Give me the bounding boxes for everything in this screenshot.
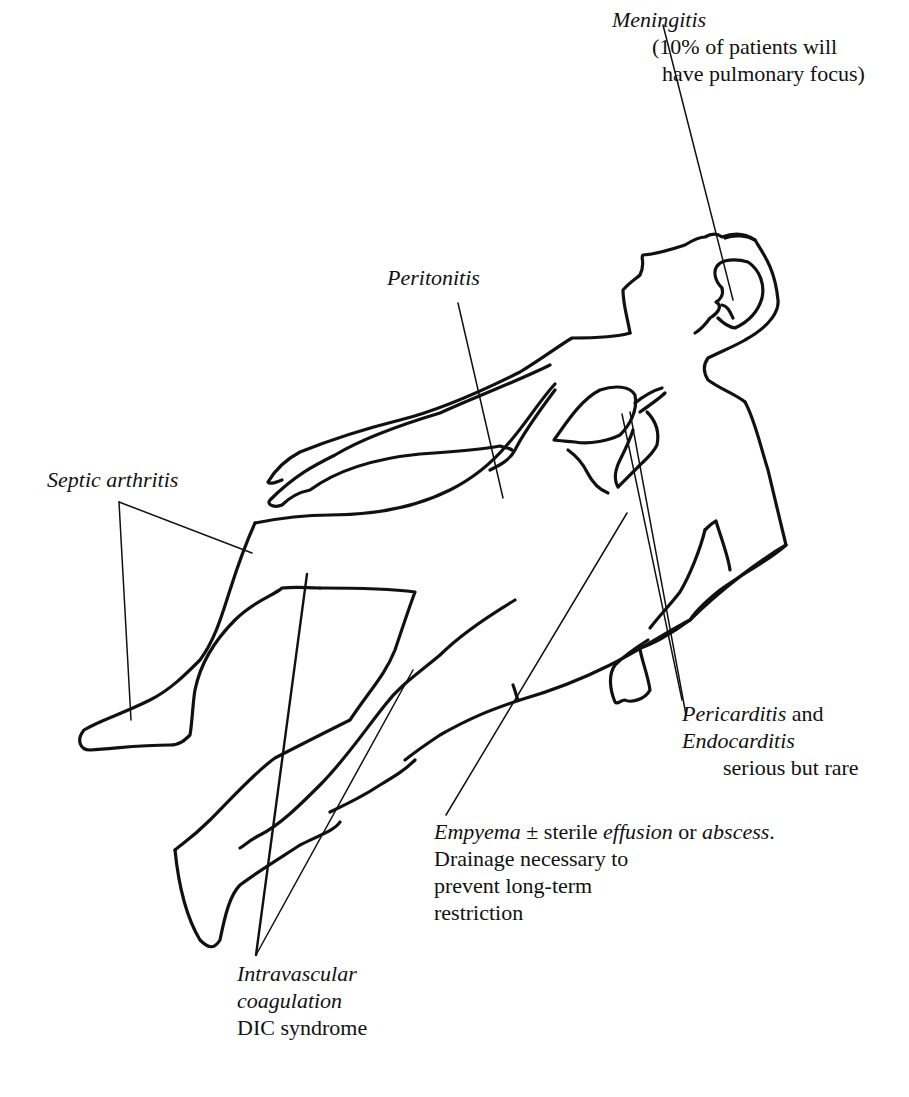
leader-lines <box>119 25 733 955</box>
pericarditis-note: serious but rare <box>682 754 859 781</box>
body-figure-illustration <box>0 0 909 1097</box>
dic-leader-1 <box>256 574 307 955</box>
empyema-leader <box>446 513 627 815</box>
peritonitis-label: Peritonitis <box>387 264 480 291</box>
empyema-term: Empyema <box>434 819 521 844</box>
empyema-line1: Empyema ± sterile effusion or abscess. <box>434 818 775 845</box>
dic-line3: DIC syndrome <box>237 1014 367 1041</box>
dic-label: Intravascular coagulation DIC syndrome <box>237 960 367 1041</box>
effusion-term: effusion <box>603 819 673 844</box>
pericarditis-endocarditis-label: Pericarditis and Endocarditis serious bu… <box>682 700 859 781</box>
empyema-line4: restriction <box>434 899 775 926</box>
septic-arthritis-label: Septic arthritis <box>47 466 178 493</box>
empyema-label: Empyema ± sterile effusion or abscess. D… <box>434 818 775 926</box>
pericarditis-line: Pericarditis and <box>682 700 859 727</box>
empyema-or: or <box>673 819 702 844</box>
head-outline <box>623 234 778 402</box>
meningitis-note-line1: (10% of patients will <box>612 33 865 60</box>
meningitis-note-line2: have pulmonary focus) <box>612 60 865 87</box>
pericarditis-leader-1 <box>622 414 682 700</box>
septic-arthritis-leader-knee <box>119 502 252 553</box>
dic-line1: Intravascular <box>237 960 367 987</box>
left-arm-outline <box>255 365 555 523</box>
pericarditis-and: and <box>786 701 823 726</box>
septic-arthritis-leader-ankle <box>119 502 131 720</box>
dic-line2: coagulation <box>237 987 367 1014</box>
right-arm-outline <box>610 521 786 703</box>
empyema-pm: ± sterile <box>521 819 603 844</box>
dic-leader-2 <box>256 670 413 955</box>
lungs-heart-outline <box>554 387 665 493</box>
meningitis-label: Meningitis (10% of patients will have pu… <box>612 6 865 87</box>
endocarditis-term: Endocarditis <box>682 727 859 754</box>
meningitis-title: Meningitis <box>612 6 865 33</box>
abscess-term: abscess <box>702 819 769 844</box>
pericarditis-term: Pericarditis <box>682 701 786 726</box>
empyema-line2: Drainage necessary to <box>434 845 775 872</box>
pericarditis-leader-2 <box>630 412 686 715</box>
empyema-line3: prevent long-term <box>434 872 775 899</box>
empyema-period: . <box>769 819 775 844</box>
